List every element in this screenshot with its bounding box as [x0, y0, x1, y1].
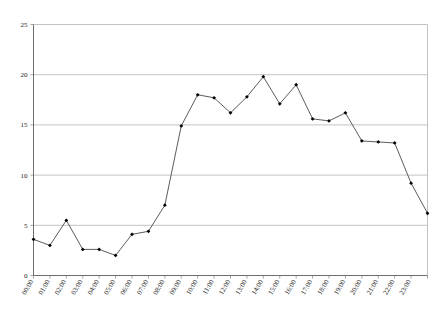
data-point-0 [32, 237, 36, 241]
series-line [34, 77, 428, 256]
x-axis-label-19:00: 19:00 [332, 278, 347, 296]
y-axis-label-25: 25 [21, 21, 29, 29]
data-point-18 [327, 119, 331, 123]
x-axis-label-05:00: 05:00 [102, 278, 117, 296]
x-axis-label-23:00: 23:00 [398, 278, 413, 296]
data-point-20 [360, 139, 364, 143]
x-axis-label-17:00: 17:00 [299, 278, 314, 296]
x-axis-label-13:00: 13:00 [234, 278, 249, 296]
x-axis-label-00:00: 00:00 [20, 278, 35, 296]
data-point-4 [97, 247, 101, 251]
line-chart: 051015202500:0001:0002:0003:0004:0005:00… [0, 0, 444, 320]
x-axis-label-09:00: 09:00 [168, 278, 183, 296]
data-point-23 [409, 181, 413, 185]
y-axis-label-5: 5 [24, 222, 28, 230]
data-point-10 [196, 93, 200, 97]
x-axis-label-14:00: 14:00 [250, 278, 265, 296]
data-point-3 [81, 247, 85, 251]
data-point-24 [426, 211, 430, 215]
y-axis-label-20: 20 [21, 71, 29, 79]
x-axis-label-16:00: 16:00 [283, 278, 298, 296]
chart-canvas: 051015202500:0001:0002:0003:0004:0005:00… [0, 0, 444, 320]
x-axis-label-15:00: 15:00 [267, 278, 282, 296]
x-axis-label-01:00: 01:00 [37, 278, 52, 296]
x-axis-label-22:00: 22:00 [381, 278, 396, 296]
x-axis-label-18:00: 18:00 [316, 278, 331, 296]
x-axis-label-02:00: 02:00 [53, 278, 68, 296]
x-axis-label-06:00: 06:00 [119, 278, 134, 296]
x-axis-label-21:00: 21:00 [365, 278, 380, 296]
x-axis-label-04:00: 04:00 [86, 278, 101, 296]
data-point-19 [344, 111, 348, 115]
x-axis-label-08:00: 08:00 [152, 278, 167, 296]
x-axis-label-10:00: 10:00 [184, 278, 199, 296]
data-point-21 [376, 140, 380, 144]
x-axis-label-07:00: 07:00 [135, 278, 150, 296]
data-point-17 [311, 117, 315, 121]
data-point-22 [393, 141, 397, 145]
x-axis-label-12:00: 12:00 [217, 278, 232, 296]
x-axis-label-11:00: 11:00 [201, 278, 216, 296]
x-axis-label-20:00: 20:00 [349, 278, 364, 296]
y-axis-label-15: 15 [21, 121, 29, 129]
y-axis-label-10: 10 [21, 172, 29, 180]
x-axis-label-03:00: 03:00 [70, 278, 85, 296]
